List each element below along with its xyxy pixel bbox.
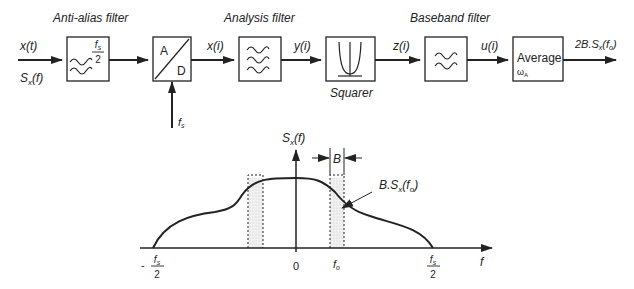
analysis-filter-block: Analysis filter <box>223 11 296 81</box>
svg-text:Squarer: Squarer <box>330 86 374 100</box>
anti-alias-title: Anti-alias filter <box>52 11 129 25</box>
x-axis-label: f <box>480 255 485 269</box>
svg-text:Analysis filter: Analysis filter <box>223 11 296 25</box>
output-label: 2B.Sx(fo) <box>574 38 617 51</box>
squarer-block: Squarer <box>326 37 375 100</box>
svg-text:2: 2 <box>95 54 101 65</box>
tick-zero: 0 <box>293 260 299 272</box>
svg-text:-: - <box>141 259 145 271</box>
y-axis-label: Sx(f) <box>282 131 305 147</box>
baseband-signal-label: u(i) <box>481 39 498 53</box>
svg-text:2: 2 <box>430 269 436 280</box>
tick-neg-half: - fs 2 <box>141 254 164 280</box>
annotation-label: B.Sx(fo) <box>379 178 418 194</box>
svg-text:A: A <box>160 44 168 58</box>
input-spectrum-label: Sx(f) <box>20 71 43 87</box>
svg-text:2: 2 <box>154 269 160 280</box>
tick-f0: fo <box>333 258 340 271</box>
average-block: Average ωA <box>513 37 563 81</box>
svg-text:fs: fs <box>430 254 437 266</box>
bandwidth-label: B <box>333 152 341 166</box>
squared-signal-label: z(i) <box>392 39 410 53</box>
svg-text:D: D <box>177 64 186 78</box>
svg-text:fs: fs <box>154 254 161 266</box>
baseband-filter-block: Baseband filter <box>410 11 491 81</box>
clock-label: fs <box>178 116 185 129</box>
input-time-label: x(t) <box>19 39 37 53</box>
spectrum-plot: B B.Sx(fo) Sx(f) f - fs 2 0 fo fs 2 <box>140 131 492 280</box>
tick-pos-half: fs 2 <box>427 254 440 280</box>
svg-text:Baseband filter: Baseband filter <box>410 11 491 25</box>
annotation-arrow <box>342 192 372 208</box>
sampled-signal-label: x(i) <box>206 39 224 53</box>
mirror-band <box>248 178 263 248</box>
diagram-canvas: Anti-alias filter fs 2 x(t) Sx(f) A D fs… <box>0 0 634 289</box>
filtered-signal-label: y(i) <box>293 39 311 53</box>
svg-text:Average: Average <box>517 51 562 65</box>
anti-alias-filter-block: Anti-alias filter fs 2 <box>52 11 129 81</box>
